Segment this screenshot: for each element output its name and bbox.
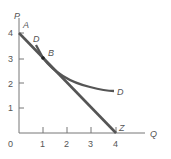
x-tick-label-1: 1 <box>40 139 45 149</box>
x-tick-label-4: 4 <box>113 139 118 149</box>
x-axis-title: Q <box>150 129 157 139</box>
x-tick-label-3: 3 <box>88 139 93 149</box>
origin-label: 0 <box>8 139 13 149</box>
y-tick-label-3: 3 <box>8 54 13 64</box>
x-tick-label-2: 2 <box>64 139 69 149</box>
label-z: Z <box>118 123 125 133</box>
label-a: A <box>22 20 29 30</box>
y-tick-label-2: 2 <box>8 79 13 89</box>
y-tick-label-1: 1 <box>8 103 13 113</box>
y-axis-title: P <box>14 11 20 21</box>
label-d-right: D <box>117 87 124 97</box>
label-b: B <box>48 48 54 58</box>
chart: 4 3 2 1 0 1 2 3 4 P Q A D B D Z <box>0 0 171 159</box>
line-az <box>19 33 116 133</box>
label-d-top: D <box>33 34 40 44</box>
y-tick-label-4: 4 <box>8 28 13 38</box>
point-b <box>41 56 45 60</box>
